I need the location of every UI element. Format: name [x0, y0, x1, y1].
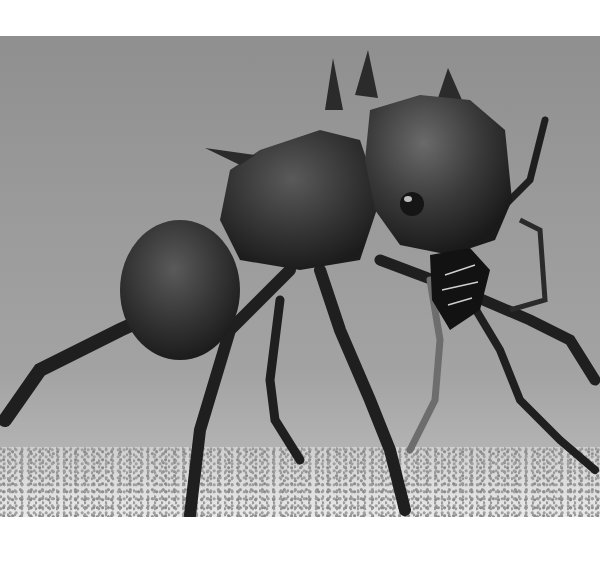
ant-photograph: [0, 36, 600, 517]
ant-illustration: [0, 36, 600, 517]
ant-legs: [5, 260, 595, 515]
ant-thorax: [220, 130, 380, 270]
ant-eye: [400, 192, 424, 216]
ant-abdomen: [120, 220, 240, 360]
ant-head: [365, 95, 512, 255]
